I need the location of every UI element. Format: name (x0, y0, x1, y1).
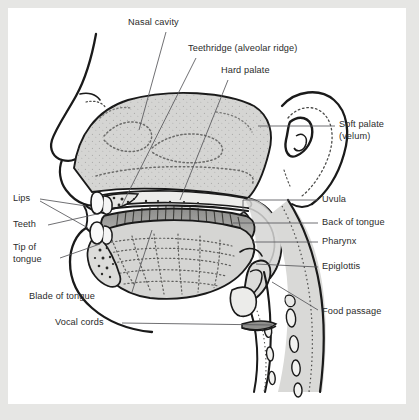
diagram-stage (0, 0, 419, 420)
vocal-tract-illustration (0, 0, 419, 420)
label-lips: Lips (13, 193, 30, 204)
ear (282, 92, 347, 207)
label-epiglottis: Epiglottis (322, 261, 360, 272)
leader-teeth (48, 214, 97, 225)
label-soft-palate: Soft palate (339, 119, 384, 130)
label-blade-of-tongue: Blade of tongue (29, 291, 95, 302)
vocal-cords (242, 321, 276, 330)
label-food-passage: Food passage (322, 306, 381, 317)
label-hard-palate: Hard palate (221, 65, 270, 76)
tongue (87, 220, 254, 299)
label-vocal-cords: Vocal cords (55, 317, 104, 328)
label-soft-palate-velum: (velum) (339, 131, 370, 142)
label-tip-of-tongue: Tip of (13, 242, 36, 253)
label-uvula: Uvula (322, 194, 346, 205)
nasal-cavity-region (70, 92, 280, 204)
label-pharynx: Pharynx (322, 236, 356, 247)
figure-page: Nasal cavity Teethridge (alveolar ridge)… (0, 0, 419, 420)
label-back-of-tongue: Back of tongue (322, 217, 385, 228)
label-tip-of-tongue-2: tongue (13, 254, 42, 265)
label-nasal-cavity: Nasal cavity (128, 17, 179, 28)
label-teeth: Teeth (13, 219, 36, 230)
label-teethridge: Teethridge (alveolar ridge) (188, 43, 297, 54)
